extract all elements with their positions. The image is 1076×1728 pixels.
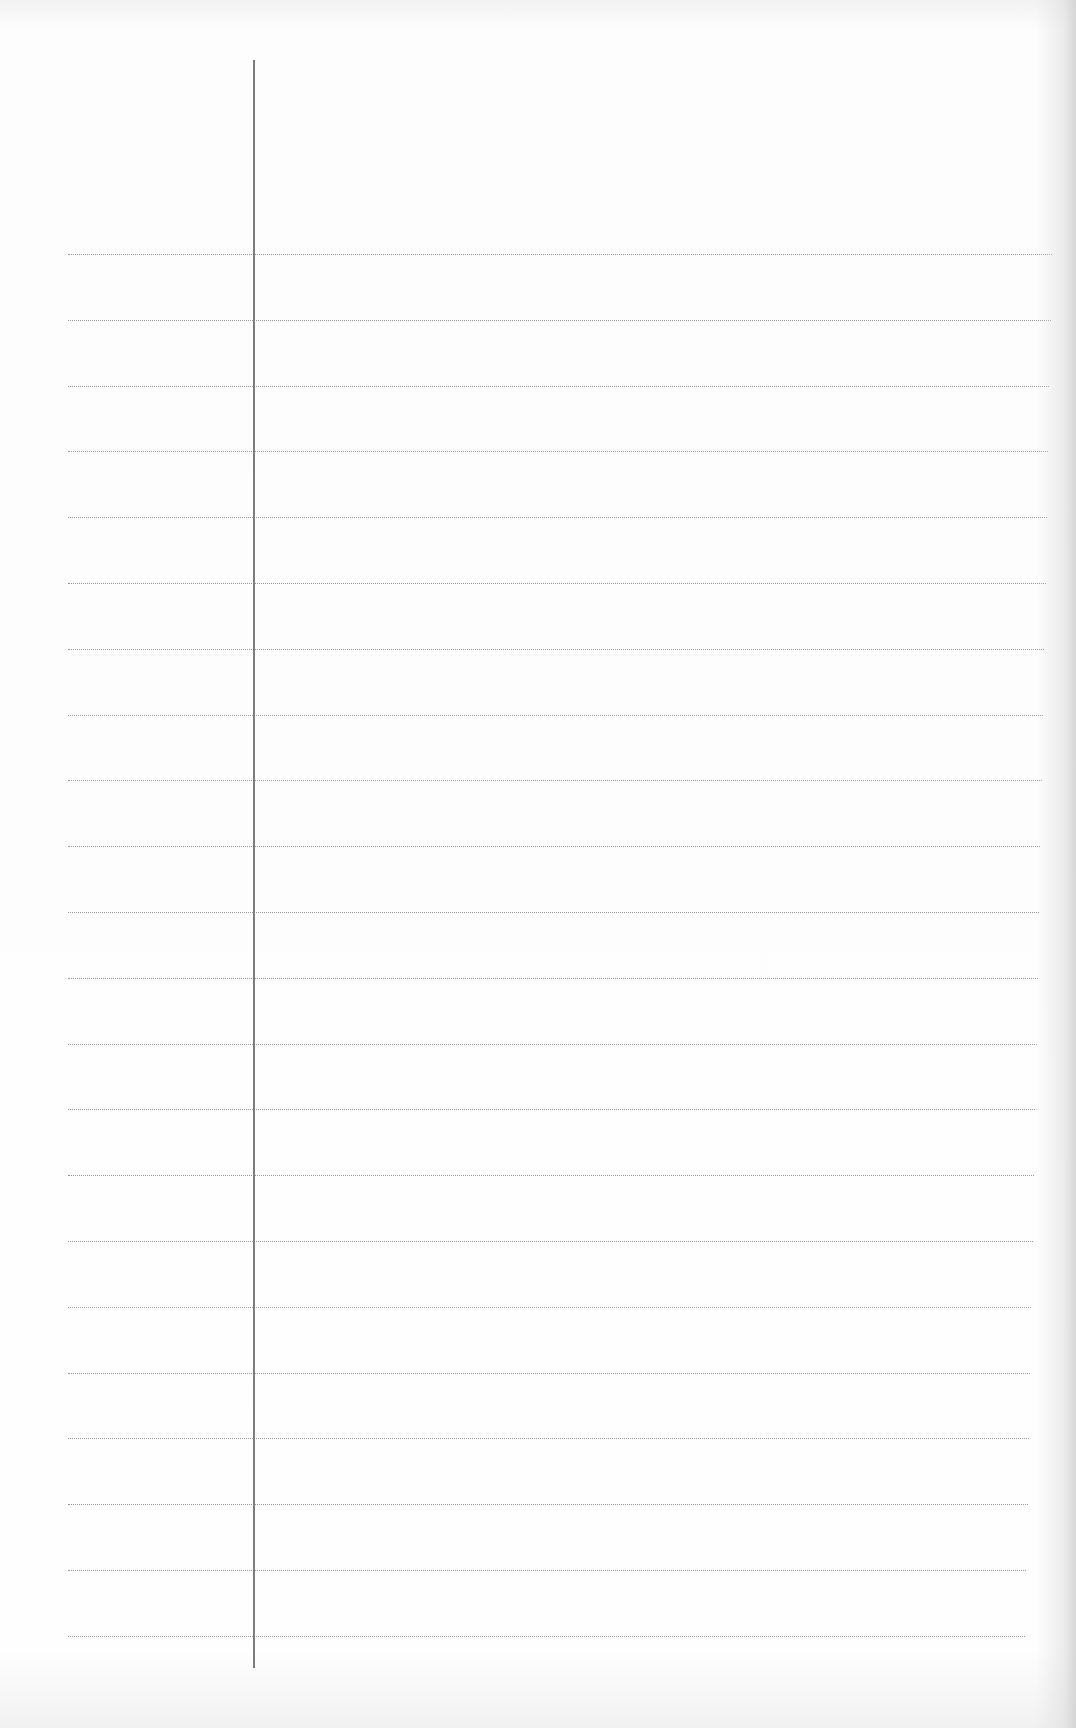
ruled-line <box>68 451 1048 452</box>
ruled-line <box>68 320 1051 321</box>
page-edge-shadow <box>1036 0 1076 1728</box>
ruled-line <box>68 780 1042 781</box>
ruled-line <box>68 1570 1026 1571</box>
ruled-line <box>68 1307 1031 1308</box>
ruled-line <box>68 846 1040 847</box>
ruled-line <box>68 254 1052 255</box>
ruled-line <box>68 912 1039 913</box>
notebook-page <box>0 0 1076 1728</box>
ruled-line <box>68 1241 1033 1242</box>
ruled-line <box>68 1373 1030 1374</box>
ruled-line <box>68 978 1038 979</box>
ruled-line <box>68 1109 1035 1110</box>
ruled-line <box>68 583 1046 584</box>
ruled-line <box>68 649 1044 650</box>
ruled-line <box>68 1504 1028 1505</box>
ruled-line <box>68 1044 1037 1045</box>
ruled-line <box>68 1438 1029 1439</box>
ruled-line <box>68 1175 1034 1176</box>
ruled-line <box>68 1636 1025 1637</box>
ruled-line <box>68 715 1043 716</box>
ruled-line <box>68 517 1047 518</box>
margin-line <box>253 60 255 1668</box>
ruled-line <box>68 386 1049 387</box>
